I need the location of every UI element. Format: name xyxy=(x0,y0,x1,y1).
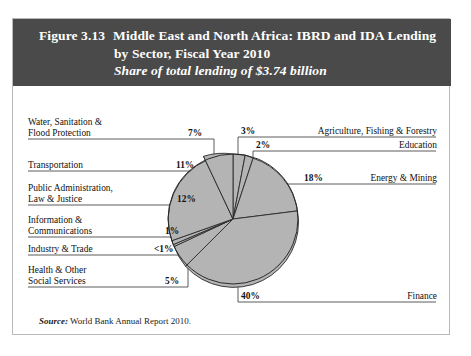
label-public-admin-line2: Law & Justice xyxy=(28,194,82,204)
label-water-line2: Flood Protection xyxy=(28,128,91,138)
label-transportation-line1: Transportation xyxy=(28,160,83,170)
figure-title-line-2: by Sector, Fiscal Year 2010 xyxy=(39,45,441,63)
value-health-social-services: 5% xyxy=(165,276,179,286)
value-industry-trade: <1% xyxy=(154,244,173,254)
figure-frame: Figure 3.13 Middle East and North Africa… xyxy=(12,18,450,335)
figure-title-block: Figure 3.13 Middle East and North Africa… xyxy=(39,26,441,80)
label-transportation: Transportation xyxy=(28,160,83,171)
label-health-social-services: Health & Other Social Services xyxy=(28,265,86,287)
value-public-administration: 12% xyxy=(177,194,196,204)
label-energy-line1: Energy & Mining xyxy=(371,173,438,183)
label-public-admin-line1: Public Administration, xyxy=(28,183,113,193)
source-prefix: Source: xyxy=(39,316,68,326)
value-water-sanitation: 7% xyxy=(188,128,202,138)
label-industry-trade: Industry & Trade xyxy=(28,244,93,255)
label-finance: Finance xyxy=(407,291,437,302)
value-transportation: 11% xyxy=(176,160,194,170)
value-agriculture-fishing-forestry: 3% xyxy=(241,126,255,136)
figure-title-band: Figure 3.13 Middle East and North Africa… xyxy=(13,19,451,86)
value-energy-mining: 18% xyxy=(304,173,323,183)
label-info-comms-line2: Communications xyxy=(28,226,92,236)
leader-line-education xyxy=(253,151,436,157)
label-education: Education xyxy=(399,140,437,151)
label-energy-mining: Energy & Mining xyxy=(371,173,438,184)
label-public-administration: Public Administration, Law & Justice xyxy=(28,183,113,205)
label-info-comms-line1: Information & xyxy=(28,215,82,225)
figure-subtitle: Share of total lending of $3.74 billion xyxy=(39,62,441,80)
label-health-line1: Health & Other xyxy=(28,265,86,275)
label-water-sanitation: Water, Sanitation & Flood Protection xyxy=(28,117,102,139)
figure-title-main: Middle East and North Africa: IBRD and I… xyxy=(113,28,436,43)
figure-title-line-1: Figure 3.13 Middle East and North Africa… xyxy=(39,26,441,45)
label-agriculture-line1: Agriculture, Fishing & Forestry xyxy=(318,126,437,136)
source-text: World Bank Annual Report 2010. xyxy=(70,316,191,326)
label-finance-line1: Finance xyxy=(407,291,437,301)
leader-line-finance xyxy=(238,282,436,302)
figure-screenshot: Figure 3.13 Middle East and North Africa… xyxy=(0,0,471,356)
figure-source: Source: World Bank Annual Report 2010. xyxy=(39,316,191,326)
value-information-communications: 1% xyxy=(165,226,179,236)
value-finance: 40% xyxy=(241,291,260,301)
label-education-line1: Education xyxy=(399,140,437,150)
chart-plot-area: Water, Sanitation & Flood Protection 7% … xyxy=(13,86,451,336)
label-agriculture-fishing-forestry: Agriculture, Fishing & Forestry xyxy=(318,126,437,137)
label-information-communications: Information & Communications xyxy=(28,215,92,237)
label-industry-line1: Industry & Trade xyxy=(28,244,93,254)
value-education: 2% xyxy=(256,140,270,150)
label-water-line1: Water, Sanitation & xyxy=(28,117,102,127)
figure-number: Figure 3.13 xyxy=(39,28,105,43)
label-health-line2: Social Services xyxy=(28,276,86,286)
